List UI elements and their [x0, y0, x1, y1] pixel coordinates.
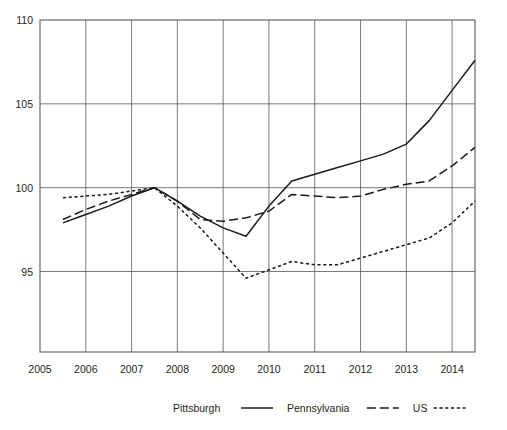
y-axis-tick-label: 105 [15, 98, 33, 110]
line-chart: 11010510095 2005200620072008200920102011… [0, 0, 507, 430]
chart-container: 11010510095 2005200620072008200920102011… [0, 0, 507, 430]
x-axis-tick-label: 2011 [303, 363, 326, 375]
x-axis-tick-labels: 2005200620072008200920102011201220132014 [28, 363, 464, 375]
x-axis-tick-label: 2006 [74, 363, 98, 375]
legend-label-pittsburgh: Pittsburgh [173, 402, 220, 414]
x-axis-tick-label: 2010 [257, 363, 281, 375]
y-axis-tick-label: 95 [21, 266, 33, 278]
y-axis-tick-label: 110 [16, 14, 33, 26]
x-axis-tick-label: 2005 [28, 363, 52, 375]
y-axis-tick-labels: 11010510095 [15, 14, 33, 278]
x-axis-tick-label: 2007 [120, 363, 144, 375]
legend-label-pennsylvania: Pennsylvania [287, 402, 350, 414]
plot-area-frame [40, 20, 475, 352]
y-axis-tick-label: 100 [15, 182, 33, 194]
x-axis-tick-label: 2013 [395, 363, 419, 375]
x-axis-tick-label: 2012 [349, 363, 373, 375]
legend-label-us: US [413, 402, 428, 414]
x-axis-tick-label: 2009 [211, 363, 235, 375]
gridlines [40, 20, 475, 352]
x-axis-tick-label: 2014 [440, 363, 464, 375]
chart-legend: PittsburghPennsylvaniaUS [173, 402, 466, 414]
x-axis-tick-label: 2008 [166, 363, 190, 375]
